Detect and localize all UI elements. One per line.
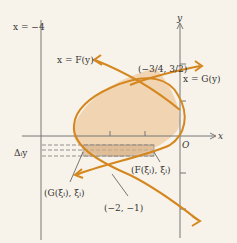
label-intersection-top: (−3/4, 3/2) xyxy=(138,64,187,74)
curve-F-arrow-icon xyxy=(94,55,102,65)
label-point-G: (G(ξᵢ), ξᵢ) xyxy=(44,188,85,198)
label-curve-F: x = F(y) xyxy=(57,55,94,65)
area-between-curves-diagram: x y x = −4 x = F(y) (−3/4, 3/2) x = G(y)… xyxy=(0,0,237,243)
label-curve-G: x = G(y) xyxy=(183,74,221,84)
label-origin: O xyxy=(182,140,190,150)
label-intersection-bottom: (−2, −1) xyxy=(104,203,143,213)
label-delta-y: Δᵢy xyxy=(14,148,28,158)
x-axis-label: x xyxy=(218,131,223,141)
y-axis-label: y xyxy=(176,13,183,23)
curve-G-lower-arrow-icon xyxy=(192,216,200,226)
label-point-F: (F(ξᵢ), ξᵢ) xyxy=(131,165,171,175)
label-x-minus-4: x = −4 xyxy=(13,22,45,32)
